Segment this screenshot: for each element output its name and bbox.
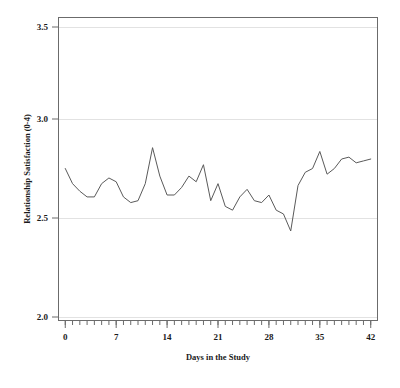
y-tick-label-3-0: 3.0 xyxy=(37,114,49,124)
x-axis-major-ticks xyxy=(65,321,370,328)
x-tick-label-35: 35 xyxy=(315,332,325,342)
x-tick-label-42: 42 xyxy=(366,332,376,342)
y-tick-label-2-5: 2.5 xyxy=(37,213,49,223)
line-chart-svg: 3.5 3.0 2.5 2.0 071421283542 Days in the… xyxy=(0,0,400,388)
plot-frame xyxy=(59,18,378,321)
y-tick-labels: 3.5 3.0 2.5 2.0 xyxy=(37,22,49,322)
x-tick-label-7: 7 xyxy=(114,332,119,342)
y-tick-label-3-5: 3.5 xyxy=(37,22,49,32)
y-tick-label-2-0: 2.0 xyxy=(37,312,49,322)
x-tick-label-0: 0 xyxy=(63,332,68,342)
y-axis-title: Relationship Satisfaction (0-4) xyxy=(22,114,32,224)
x-axis-title: Days in the Study xyxy=(186,352,251,362)
x-tick-label-21: 21 xyxy=(214,332,224,342)
x-tick-label-28: 28 xyxy=(264,332,274,342)
x-tick-label-14: 14 xyxy=(163,332,173,342)
chart-figure: 3.5 3.0 2.5 2.0 071421283542 Days in the… xyxy=(0,0,400,388)
y-axis-ticks xyxy=(52,27,58,317)
x-tick-labels: 071421283542 xyxy=(63,332,376,342)
